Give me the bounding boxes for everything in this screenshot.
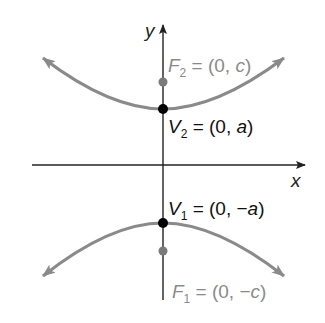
- vertex-v1-label: V1 = (0, −a): [168, 198, 264, 223]
- vertex-v1-dot: [158, 218, 168, 228]
- vertex-v2-dot: [158, 104, 168, 114]
- focus-f1-label: F1 = (0, −c): [172, 281, 266, 306]
- hyperbola-diagram: y x F2 = (0, c) V2 = (0, a) V1 = (0, −a)…: [0, 0, 325, 323]
- x-axis-label: x: [290, 170, 302, 191]
- focus-f2-dot: [159, 78, 168, 87]
- focus-f2-label: F2 = (0, c): [168, 55, 251, 80]
- y-axis-label: y: [143, 20, 156, 41]
- focus-f1-dot: [159, 247, 168, 256]
- vertex-v2-label: V2 = (0, a): [168, 116, 253, 141]
